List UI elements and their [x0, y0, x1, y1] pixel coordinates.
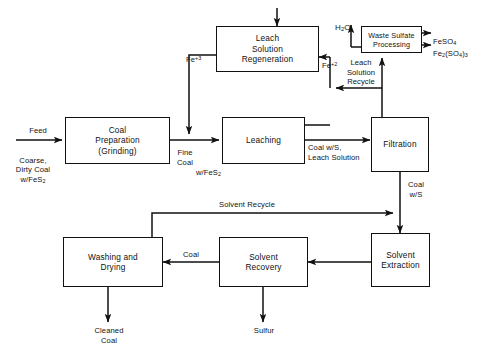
- label-cleaned-coal: Cleaned Coal: [86, 326, 132, 345]
- label-leach-solution-recycle: Leach Solution Recycle: [339, 58, 383, 87]
- label-feed: Feed: [12, 126, 64, 136]
- label-fe3: Fe+3: [186, 44, 216, 64]
- label-feed-stream-sub: 2: [42, 178, 45, 184]
- node-solvent-recovery[interactable]: Solvent Recovery: [219, 237, 308, 287]
- node-washing-and-drying-label: Washing and Drying: [86, 252, 140, 273]
- product-fe2so43-fe: Fe: [433, 49, 442, 58]
- label-coal: Coal: [174, 250, 208, 260]
- node-leach-solution-regeneration-label: Leach Solution Regeneration: [240, 33, 296, 65]
- node-washing-and-drying[interactable]: Washing and Drying: [63, 237, 163, 287]
- label-wfes2-sub: 2: [218, 171, 221, 177]
- label-h2o-o: O: [344, 23, 350, 32]
- product-fe2so43-so: (SO: [445, 49, 459, 58]
- node-solvent-extraction-label: Solvent Extraction: [379, 250, 421, 271]
- label-fe2-sup: +2: [331, 61, 337, 67]
- label-wfes2-text: w/FeS: [196, 168, 218, 177]
- label-fe3-sup: +3: [195, 55, 201, 61]
- node-solvent-recovery-label: Solvent Recovery: [243, 252, 283, 273]
- label-solvent-recycle: Solvent Recycle: [199, 200, 295, 210]
- node-solvent-extraction[interactable]: Solvent Extraction: [371, 233, 430, 287]
- label-fe3-text: Fe: [186, 55, 195, 64]
- label-coal-ws: Coal w/S: [402, 180, 430, 199]
- label-fe2-text: Fe: [322, 61, 331, 70]
- node-filtration[interactable]: Filtration: [371, 117, 429, 172]
- label-h2o: H2O: [335, 13, 367, 35]
- node-leaching[interactable]: Leaching: [222, 117, 305, 164]
- node-leaching-label: Leaching: [244, 135, 283, 146]
- node-waste-sulfate-processing-label: Waste Sulfate Processing: [366, 31, 416, 49]
- connector-fe3-regen-to-leaching: [189, 55, 216, 134]
- label-feed-stream: Coarse, Dirty Coal w/FeS2: [2, 146, 64, 187]
- label-fine-coal-wfes2: w/FeS2: [196, 158, 240, 180]
- node-leach-solution-regeneration[interactable]: Leach Solution Regeneration: [216, 26, 319, 72]
- node-coal-preparation-label: Coal Preparation (Grinding): [93, 125, 142, 157]
- process-flow-diagram: Coal Preparation (Grinding) Leaching Lea…: [0, 0, 490, 359]
- product-fe2so43-sub3: 3: [465, 52, 468, 58]
- label-sulfur: Sulfur: [245, 326, 283, 336]
- node-waste-sulfate-processing[interactable]: Waste Sulfate Processing: [361, 26, 422, 53]
- label-product-fe2so43: Fe2(SO4)3: [433, 39, 490, 61]
- node-filtration-label: Filtration: [381, 139, 418, 150]
- connector-solvent-recycle: [152, 213, 393, 237]
- label-coal-ws-leach-solution: Coal w/S, Leach Solution: [308, 143, 372, 162]
- node-coal-preparation[interactable]: Coal Preparation (Grinding): [65, 117, 170, 164]
